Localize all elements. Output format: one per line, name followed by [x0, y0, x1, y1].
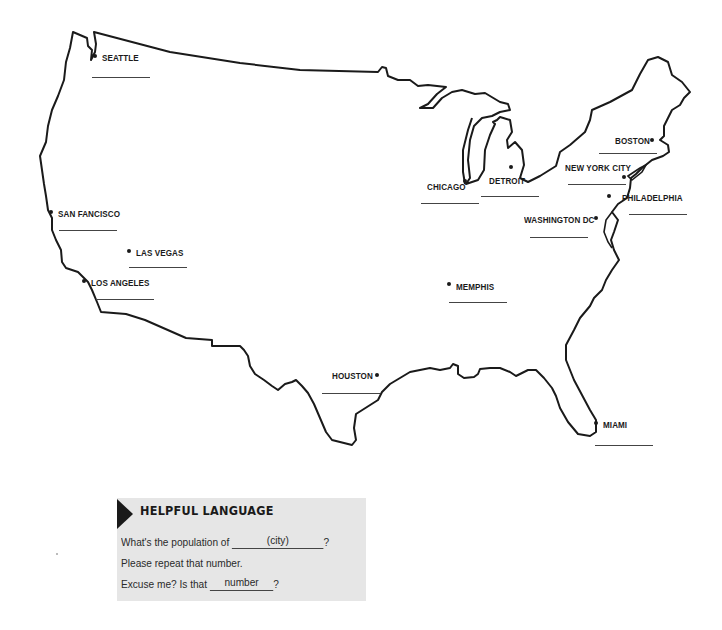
answer-blank-seattle	[92, 77, 150, 78]
answer-blank-san-fancisco	[59, 230, 117, 231]
helpful-language-title: HELPFUL LANGUAGE	[140, 503, 274, 518]
city-dot-philadelphia	[607, 194, 611, 198]
answer-blank-philadelphia	[629, 214, 687, 215]
city-label-miami: MIAMI	[603, 419, 627, 430]
city-dot-houston	[375, 373, 379, 377]
city-dot-miami	[594, 421, 598, 425]
blank-number-field: number	[210, 578, 273, 591]
city-label-houston: HOUSTON	[332, 370, 373, 381]
city-label-detroit: DETROIT	[489, 175, 525, 186]
lake-michigan-shore	[463, 118, 472, 184]
answer-blank-miami	[595, 445, 653, 446]
help-line-repeat: Please repeat that number.	[121, 557, 243, 569]
answer-blank-washington-dc	[530, 237, 588, 238]
answer-blank-houston	[322, 393, 380, 394]
answer-blank-detroit	[481, 196, 539, 197]
city-dot-san-fancisco	[49, 210, 53, 214]
answer-blank-new-york-city	[568, 184, 626, 185]
answer-blank-chicago	[421, 203, 479, 204]
city-label-new-york-city: NEW YORK CITY	[565, 162, 631, 173]
answer-blank-memphis	[449, 302, 507, 303]
city-label-san-fancisco: SAN FANCISCO	[58, 208, 120, 219]
city-dot-seattle	[93, 54, 97, 58]
stray-mark	[56, 553, 58, 555]
city-label-seattle: SEATTLE	[102, 52, 139, 63]
answer-blank-los-angeles	[96, 299, 154, 300]
city-dot-boston	[650, 138, 654, 142]
city-label-boston: BOSTON	[615, 135, 650, 146]
blank-city-field: (city)	[232, 536, 324, 549]
city-label-chicago: CHICAGO	[427, 181, 466, 192]
city-label-memphis: MEMPHIS	[456, 281, 494, 292]
triangle-arrow-icon	[117, 499, 133, 529]
city-dot-memphis	[447, 282, 451, 286]
answer-blank-boston	[599, 153, 657, 154]
help-line-excuse: Excuse me? Is that number?	[121, 578, 279, 591]
help-line-population: What's the population of (city)?	[121, 536, 329, 549]
helpful-language-box: HELPFUL LANGUAGE What's the population o…	[117, 498, 366, 601]
city-dot-detroit	[509, 165, 513, 169]
city-dot-washington-dc	[594, 216, 598, 220]
city-dot-new-york-city	[622, 175, 626, 179]
city-dot-los-angeles	[82, 279, 86, 283]
city-dot-las-vegas	[127, 249, 131, 253]
us-map-outline	[0, 0, 722, 480]
city-label-los-angeles: LOS ANGELES	[91, 277, 150, 288]
city-label-washington-dc: WASHINGTON DC	[524, 214, 594, 225]
city-label-philadelphia: PHILADELPHIA	[622, 192, 683, 203]
answer-blank-las-vegas	[129, 267, 187, 268]
city-label-las-vegas: LAS VEGAS	[136, 247, 183, 258]
us-border-path	[40, 32, 690, 445]
